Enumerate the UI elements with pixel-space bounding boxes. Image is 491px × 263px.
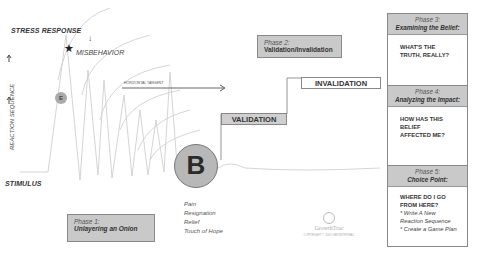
phase-1-number: Phase 1: bbox=[74, 218, 148, 225]
horizontal-tangent-label: HORIZONTAL TANGENT bbox=[124, 81, 164, 85]
e-marker: E bbox=[55, 92, 67, 104]
b-marker: B bbox=[174, 144, 218, 188]
misbehavior-label: MISBEHAVIOR bbox=[76, 49, 124, 56]
phase-3-number: Phase 3: bbox=[390, 16, 465, 24]
phase-5-title: Choice Point: bbox=[390, 176, 465, 184]
phase-4-header: Phase 4: Analyzing the Impact: bbox=[388, 86, 467, 107]
phase-5-number: Phase 5: bbox=[390, 168, 465, 176]
phase-2-title: Validation/Invalidation bbox=[264, 46, 335, 53]
phase-5-bullet: * Write A New Reaction Sequence bbox=[400, 209, 458, 225]
emotions-list: Pain Resignation Relief Touch of Hope bbox=[184, 200, 223, 236]
phase-4-title: Analyzing the Impact: bbox=[390, 96, 465, 104]
phase-5-bullet: * Create a Game Plan bbox=[400, 225, 467, 233]
phase-3-card: Phase 3: Examining the Belief: WHAT'S TH… bbox=[387, 13, 468, 86]
reaction-sequence-label: REACTION SEQUENCE bbox=[9, 84, 15, 150]
logo-ring-icon bbox=[323, 212, 335, 224]
phase-1-box: Phase 1: Unlayering an Onion bbox=[67, 214, 155, 242]
phase-5-question: WHERE DO I GO FROM HERE? bbox=[400, 193, 448, 209]
logo-name: GrowthTrac bbox=[296, 225, 362, 231]
validation-step: VALIDATION bbox=[221, 113, 287, 125]
emotion-item: Pain bbox=[184, 200, 223, 209]
logo-copyright: COPYRIGHT © 2007 GROWTHTRAC bbox=[296, 233, 362, 237]
phase-4-card: Phase 4: Analyzing the Impact: HOW HAS T… bbox=[387, 85, 468, 166]
phase-2-number: Phase 2: bbox=[264, 39, 335, 46]
phase-2-box: Phase 2: Validation/Invalidation bbox=[257, 35, 342, 58]
phase-1-title: Unlayering an Onion bbox=[74, 225, 148, 232]
emotion-item: Resignation bbox=[184, 209, 223, 218]
phase-5-header: Phase 5: Choice Point: bbox=[388, 166, 467, 187]
phase-3-title: Examining the Belief: bbox=[390, 24, 465, 32]
phase-3-header: Phase 3: Examining the Belief: bbox=[388, 14, 467, 35]
phase-3-question: WHAT'S THE TRUTH, REALLY? bbox=[400, 43, 455, 59]
phase-4-question: HOW HAS THIS BELIEF AFFECTED ME? bbox=[400, 115, 445, 139]
phase-5-card: Phase 5: Choice Point: WHERE DO I GO FRO… bbox=[387, 165, 468, 247]
invalidation-step: INVALIDATION bbox=[301, 77, 381, 89]
growthtrac-logo: GrowthTrac COPYRIGHT © 2007 GROWTHTRAC bbox=[296, 212, 362, 237]
emotion-item: Touch of Hope bbox=[184, 227, 223, 236]
arrow-down-icon: ↓ bbox=[88, 34, 92, 43]
phase-4-number: Phase 4: bbox=[390, 88, 465, 96]
emotion-item: Relief bbox=[184, 218, 223, 227]
stimulus-label: STIMULUS bbox=[5, 180, 42, 187]
star-icon: ★ bbox=[64, 42, 74, 55]
stress-response-label: STRESS RESPONSE bbox=[11, 27, 81, 34]
